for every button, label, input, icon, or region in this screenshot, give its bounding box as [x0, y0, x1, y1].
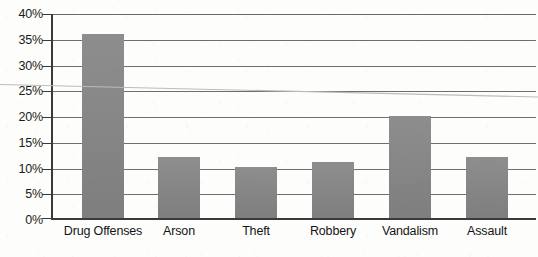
bar-theft	[235, 167, 277, 218]
y-tick-label-0: 0%	[1, 213, 43, 227]
y-tick-label-25: 25%	[1, 84, 43, 98]
bar-fill	[312, 162, 354, 218]
bar-vandalism	[389, 116, 431, 218]
plot-area	[51, 14, 536, 220]
x-tick-label-arson: Arson	[163, 224, 195, 238]
bar-assault	[466, 157, 508, 218]
y-axis-labels: 40% 35% 30% 25% 20% 15% 10% 5% 0%	[0, 14, 43, 220]
y-tick-label-15: 15%	[1, 136, 43, 150]
y-tick-label-35: 35%	[1, 33, 43, 47]
bar-fill	[158, 157, 200, 218]
y-tick-mark-40	[42, 14, 51, 15]
x-tick-label-assault: Assault	[467, 224, 507, 238]
y-tick-mark-30	[42, 66, 51, 67]
y-tick-label-5: 5%	[1, 187, 43, 201]
x-tick-label-robbery: Robbery	[310, 224, 356, 238]
bar-drug-offenses	[82, 34, 124, 218]
x-tick-label-vandalism: Vandalism	[382, 224, 438, 238]
bar-fill	[466, 157, 508, 218]
y-tick-mark-10	[42, 169, 51, 170]
gridline-40	[51, 14, 536, 15]
y-tick-mark-35	[42, 40, 51, 41]
bar-fill	[82, 34, 124, 218]
bar-fill	[235, 167, 277, 218]
y-tick-mark-5	[42, 194, 51, 195]
y-tick-mark-0	[42, 218, 51, 219]
y-tick-mark-25	[42, 91, 51, 92]
bar-robbery	[312, 162, 354, 218]
x-axis-line	[51, 218, 536, 220]
x-tick-label-theft: Theft	[242, 224, 270, 238]
y-tick-label-20: 20%	[1, 110, 43, 124]
y-tick-label-10: 10%	[1, 162, 43, 176]
y-tick-label-40: 40%	[1, 7, 43, 21]
y-tick-mark-20	[42, 117, 51, 118]
y-axis-line	[51, 14, 53, 220]
y-tick-mark-15	[42, 143, 51, 144]
x-tick-label-drug-offenses: Drug Offenses	[64, 224, 142, 238]
y-tick-label-30: 30%	[1, 59, 43, 73]
bar-arson	[158, 157, 200, 218]
chart-page: 40% 35% 30% 25% 20% 15% 10% 5% 0%	[0, 0, 538, 257]
bar-fill	[389, 116, 431, 218]
